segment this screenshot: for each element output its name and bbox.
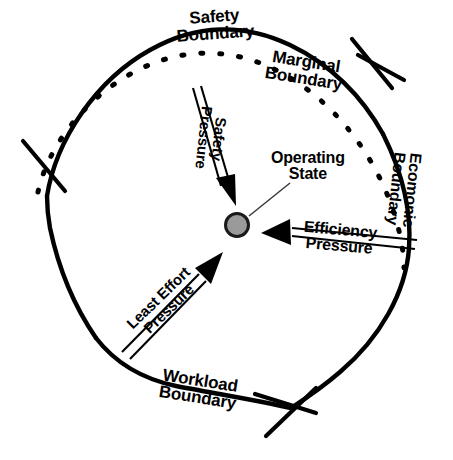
operating-state-marker[interactable] [224, 212, 250, 238]
economic-boundary-label: Ecomonic Boundary [383, 150, 423, 228]
cross-tick-left [23, 141, 65, 191]
safety-pressure-label: Safety Pressure [193, 106, 230, 171]
operating-state-leader-line [249, 183, 290, 216]
safety-boundary-label: Safety Boundary [175, 5, 255, 45]
efficiency-pressure-label: Efficiency Pressure [302, 219, 378, 258]
diagram-canvas: Safety Boundary Marginal Boundary Ecomon… [0, 0, 453, 460]
operating-state-label-line1: Operating [271, 149, 345, 166]
left-envelope-line [47, 196, 96, 338]
operating-state-label-line2: State [271, 166, 345, 182]
operating-state-label: Operating State [271, 150, 345, 183]
